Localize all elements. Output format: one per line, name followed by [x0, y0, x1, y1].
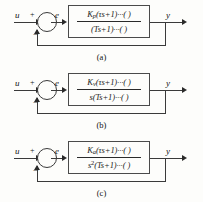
- transfer-function-fraction: Kv(τs+1)···( ) s(Ts+1)···( ): [77, 77, 141, 102]
- block-diagram-b: u + − e Kv(τs+1)···( ) s(Ts+1)···( ) y (…: [0, 68, 203, 136]
- output-wire: [150, 22, 184, 23]
- error-arrowhead-icon: [62, 155, 67, 161]
- transfer-function-denominator: s2(Ts+1)···( ): [88, 159, 130, 171]
- input-signal-label: u: [15, 147, 20, 156]
- output-signal-label: y: [166, 11, 170, 20]
- error-signal-label: e: [55, 11, 59, 20]
- summing-reference-sign: +: [30, 11, 35, 19]
- transfer-function-numerator: Ka(τs+1)···( ): [87, 145, 131, 157]
- transfer-function-block: Kv(τs+1)···( ) s(Ts+1)···( ): [68, 73, 150, 106]
- diagram-caption: (b): [0, 120, 203, 130]
- transfer-function-denominator: (Ts+1)···( ): [91, 23, 127, 35]
- summing-reference-sign: +: [30, 79, 35, 87]
- denominator-rest: (Ts+1)···( ): [91, 24, 127, 34]
- transfer-function-denominator: s(Ts+1)···( ): [89, 91, 128, 103]
- error-arrowhead-icon: [62, 19, 67, 25]
- feedback-wire-bottom: [37, 113, 166, 114]
- feedback-arrowhead-icon: [34, 97, 40, 102]
- numerator-rest: (τs+1)···( ): [96, 145, 131, 155]
- error-signal-label: e: [55, 147, 59, 156]
- output-arrowhead-icon: [182, 87, 187, 93]
- input-wire: [14, 158, 38, 159]
- input-signal-label: u: [15, 11, 20, 20]
- feedback-wire-bottom: [37, 45, 166, 46]
- input-wire: [14, 22, 38, 23]
- transfer-function-numerator: Kv(τs+1)···( ): [87, 77, 130, 89]
- output-signal-label: y: [166, 147, 170, 156]
- transfer-function-block: Ka(τs+1)···( ) s2(Ts+1)···( ): [68, 141, 150, 174]
- transfer-function-numerator: Kp(τs+1)···( ): [87, 9, 131, 21]
- summing-reference-sign: +: [30, 147, 35, 155]
- numerator-rest: (τs+1)···( ): [96, 77, 131, 87]
- error-signal-label: e: [55, 79, 59, 88]
- output-wire: [150, 158, 184, 159]
- feedback-wire-right: [165, 90, 166, 114]
- output-arrowhead-icon: [182, 155, 187, 161]
- input-wire: [14, 90, 38, 91]
- numerator-rest: (τs+1)···( ): [96, 9, 131, 19]
- diagram-caption: (c): [0, 188, 203, 198]
- output-arrowhead-icon: [182, 19, 187, 25]
- error-arrowhead-icon: [62, 87, 67, 93]
- input-signal-label: u: [15, 79, 20, 88]
- feedback-wire-right: [165, 158, 166, 182]
- denominator-rest: (Ts+1)···( ): [94, 160, 130, 170]
- block-diagram-a: u + − e Kp(τs+1)···( ) (Ts+1)···( ) y (a…: [0, 0, 203, 68]
- transfer-function-fraction: Kp(τs+1)···( ) (Ts+1)···( ): [77, 9, 141, 34]
- output-wire: [150, 90, 184, 91]
- feedback-arrowhead-icon: [34, 29, 40, 34]
- output-signal-label: y: [166, 79, 170, 88]
- feedback-wire-bottom: [37, 181, 166, 182]
- block-diagram-c: u + − e Ka(τs+1)···( ) s2(Ts+1)···( ) y …: [0, 136, 203, 202]
- transfer-function-block: Kp(τs+1)···( ) (Ts+1)···( ): [68, 5, 150, 38]
- feedback-arrowhead-icon: [34, 165, 40, 170]
- transfer-function-fraction: Ka(τs+1)···( ) s2(Ts+1)···( ): [77, 145, 141, 170]
- feedback-wire-right: [165, 22, 166, 46]
- diagram-caption: (a): [0, 52, 203, 62]
- denominator-rest: (Ts+1)···( ): [93, 92, 129, 102]
